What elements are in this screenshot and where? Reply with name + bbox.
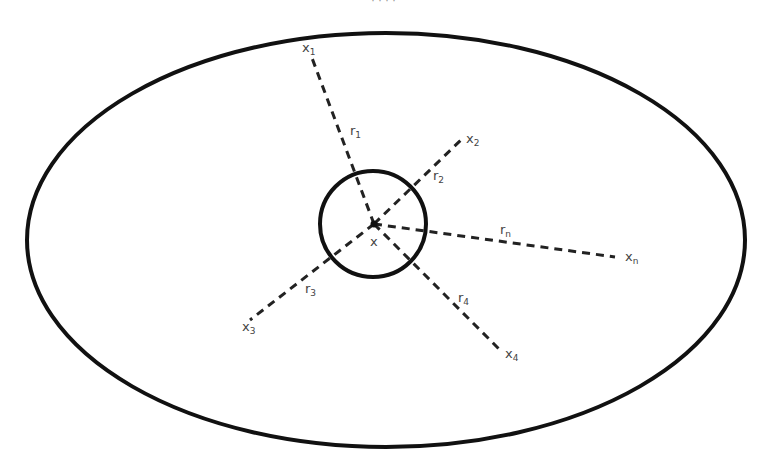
labels: x1r1x2r2xnrnx3r3x4r4x: [242, 40, 638, 363]
distance-label-rn: rn: [500, 222, 511, 239]
distance-rays: [250, 58, 615, 350]
ray-n: [374, 224, 615, 257]
ray-4: [374, 224, 500, 350]
ray-1: [312, 58, 374, 224]
center-point-dot: [371, 221, 378, 228]
ray-2: [374, 138, 463, 224]
ball-neighborhood-diagram: x1r1x2r2xnrnx3r3x4r4x: [0, 0, 767, 465]
point-label-x1: x1: [302, 40, 315, 57]
distance-label-r3: r3: [305, 281, 316, 298]
center-label-x: x: [370, 234, 378, 249]
distance-label-r2: r2: [433, 168, 444, 185]
outer-region-ellipse: [27, 33, 745, 447]
distance-label-r4: r4: [458, 290, 469, 307]
distance-label-r1: r1: [350, 123, 361, 140]
point-label-x2: x2: [466, 131, 479, 148]
point-label-x3: x3: [242, 319, 255, 336]
point-label-x4: x4: [505, 346, 519, 363]
point-label-xn: xn: [625, 249, 638, 266]
